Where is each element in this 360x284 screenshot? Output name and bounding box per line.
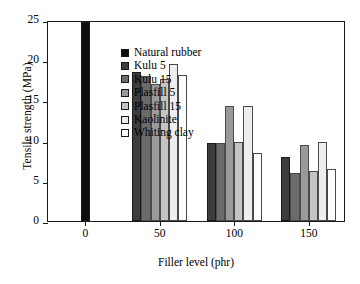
legend-label: Natural rubber xyxy=(134,47,201,59)
legend-item: Kulu 15 xyxy=(121,73,201,86)
bar xyxy=(207,143,216,221)
legend-label: Plasfill 15 xyxy=(134,101,181,113)
x-tick-label: 100 xyxy=(226,228,243,240)
bar xyxy=(234,142,243,221)
bar xyxy=(253,153,262,221)
legend-label: Whiting clay xyxy=(134,127,194,139)
legend-swatch-icon xyxy=(121,129,129,137)
y-tick: 10 xyxy=(43,143,48,144)
bar xyxy=(318,142,327,221)
x-tick-label: 0 xyxy=(82,228,88,240)
y-tick-label: 15 xyxy=(28,94,40,106)
legend-swatch-icon xyxy=(121,102,129,110)
y-tick: 5 xyxy=(43,183,48,184)
legend-item: Plasfill 15 xyxy=(121,100,201,113)
legend-item: Kaolinite xyxy=(121,113,201,126)
y-tick-label: 0 xyxy=(33,215,39,227)
chart-legend: Natural rubberKulu 5Kulu 15Plasfill 5Pla… xyxy=(121,46,201,140)
y-tick: 0 xyxy=(43,223,48,224)
y-tick-label: 25 xyxy=(28,14,40,26)
y-tick: 20 xyxy=(43,62,48,63)
bar xyxy=(216,143,225,221)
legend-swatch-icon xyxy=(121,75,129,83)
bar xyxy=(309,171,318,221)
legend-item: Whiting clay xyxy=(121,126,201,139)
y-tick: 25 xyxy=(43,22,48,23)
y-tick: 15 xyxy=(43,102,48,103)
y-tick-label: 10 xyxy=(28,135,40,147)
legend-label: Kulu 15 xyxy=(134,74,171,86)
bar xyxy=(290,173,299,221)
y-tick-label: 5 xyxy=(33,175,39,187)
plot-area: 0510152025 050100150 Natural rubberKulu … xyxy=(47,21,345,222)
y-axis-title: Tensile strength (MPa) xyxy=(21,16,33,216)
x-axis-title: Filler level (phr) xyxy=(47,256,345,268)
legend-item: Kulu 5 xyxy=(121,59,201,72)
x-tick xyxy=(309,221,310,226)
legend-item: Natural rubber xyxy=(121,46,201,59)
bar xyxy=(327,169,336,221)
legend-item: Plasfill 5 xyxy=(121,86,201,99)
bar xyxy=(281,157,290,221)
bar-chart-figure: Tensile strength (MPa) 0510152025 050100… xyxy=(0,0,360,284)
legend-label: Plasfill 5 xyxy=(134,87,175,99)
legend-label: Kaolinite xyxy=(134,114,177,126)
x-tick-label: 50 xyxy=(154,228,166,240)
x-tick xyxy=(234,221,235,226)
bar xyxy=(81,22,90,221)
bar xyxy=(243,106,252,221)
legend-label: Kulu 5 xyxy=(134,60,166,72)
legend-swatch-icon xyxy=(121,116,129,124)
legend-swatch-icon xyxy=(121,62,129,70)
bar xyxy=(300,145,309,221)
bar xyxy=(225,106,234,221)
x-tick xyxy=(85,221,86,226)
x-tick xyxy=(160,221,161,226)
x-tick-label: 150 xyxy=(300,228,317,240)
legend-swatch-icon xyxy=(121,89,129,97)
legend-swatch-icon xyxy=(121,49,129,57)
y-tick-label: 20 xyxy=(28,54,40,66)
